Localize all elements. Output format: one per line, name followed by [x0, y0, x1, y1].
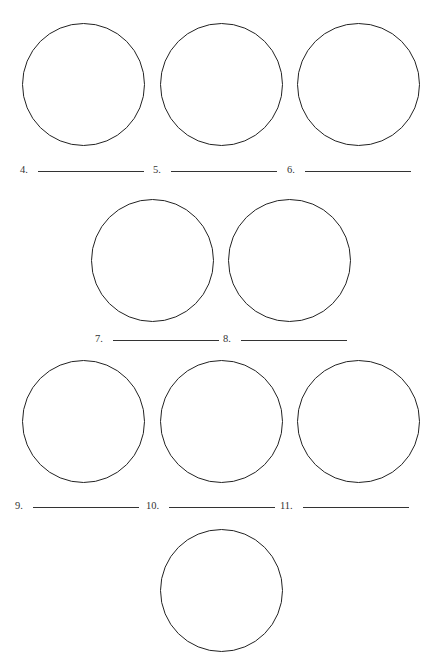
blank-circle [91, 199, 214, 322]
answer-blank-line[interactable] [171, 170, 277, 172]
answer-item: 11. [280, 500, 409, 511]
answer-number: 9. [15, 500, 23, 511]
blank-circle [160, 360, 283, 483]
answer-number: 11. [280, 500, 293, 511]
blank-circle [160, 529, 283, 652]
answer-number: 4. [20, 164, 28, 175]
answer-item: 5. [153, 164, 277, 175]
answer-blank-line[interactable] [38, 170, 144, 172]
answer-blank-line[interactable] [33, 506, 139, 508]
answer-blank-line[interactable] [305, 170, 411, 172]
answer-number: 5. [153, 164, 161, 175]
blank-circle [160, 23, 283, 146]
answer-blank-line[interactable] [241, 339, 347, 341]
blank-circle [228, 199, 351, 322]
answer-item: 6. [287, 164, 411, 175]
answer-item: 8. [223, 333, 347, 344]
blank-circle [22, 23, 145, 146]
blank-circle [297, 360, 420, 483]
answer-item: 7. [95, 333, 219, 344]
answer-number: 6. [287, 164, 295, 175]
answer-item: 10. [146, 500, 275, 511]
answer-item: 9. [15, 500, 139, 511]
answer-number: 10. [146, 500, 159, 511]
blank-circle [297, 23, 420, 146]
answer-item: 4. [20, 164, 144, 175]
answer-number: 8. [223, 333, 231, 344]
answer-blank-line[interactable] [303, 506, 409, 508]
answer-blank-line[interactable] [113, 339, 219, 341]
blank-circle [22, 360, 145, 483]
answer-number: 7. [95, 333, 103, 344]
answer-blank-line[interactable] [169, 506, 275, 508]
